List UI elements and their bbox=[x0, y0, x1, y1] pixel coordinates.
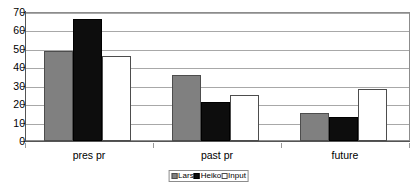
x-axis-category-labels: pres pr past pr future bbox=[25, 143, 410, 163]
legend-swatch-heiko-icon bbox=[194, 173, 200, 179]
bar-pres-pr-input bbox=[102, 56, 131, 141]
bars-layer bbox=[25, 12, 410, 141]
x-tick-separator bbox=[25, 143, 26, 148]
x-cat-label-pres-pr: pres pr bbox=[73, 149, 106, 161]
x-tick-separator bbox=[281, 143, 282, 148]
bar-past-pr-heiko bbox=[201, 102, 230, 141]
x-axis bbox=[25, 141, 410, 142]
legend: Lars Heiko Input bbox=[168, 170, 249, 182]
y-tick-label-10: 10 bbox=[3, 118, 25, 128]
legend-label-input: Input bbox=[228, 172, 246, 180]
bar-future-heiko bbox=[329, 117, 358, 141]
legend-label-heiko: Heiko bbox=[201, 172, 221, 180]
bar-pres-pr-lars bbox=[44, 51, 73, 141]
bar-future-lars bbox=[300, 113, 329, 141]
bar-past-pr-input bbox=[230, 95, 259, 141]
y-tick-label-0: 0 bbox=[3, 136, 25, 146]
y-tick-label-40: 40 bbox=[3, 62, 25, 72]
y-tick-label-30: 30 bbox=[3, 81, 25, 91]
y-tick-label-50: 50 bbox=[3, 44, 25, 54]
legend-swatch-lars-icon bbox=[171, 173, 177, 179]
y-tick-label-60: 60 bbox=[3, 25, 25, 35]
legend-label-lars: Lars bbox=[178, 172, 194, 180]
bar-chart: 70 60 50 40 30 20 10 0 pres pr past pr f… bbox=[0, 0, 417, 191]
x-tick-separator bbox=[409, 143, 410, 148]
legend-entry-lars: Lars bbox=[171, 172, 194, 180]
y-axis-tick-labels: 70 60 50 40 30 20 10 0 bbox=[0, 0, 25, 191]
bar-pres-pr-heiko bbox=[73, 19, 102, 141]
bar-future-input bbox=[358, 89, 387, 141]
x-tick-separator bbox=[153, 143, 154, 148]
legend-swatch-input-icon bbox=[221, 173, 227, 179]
bar-past-pr-lars bbox=[172, 75, 201, 141]
x-cat-label-future: future bbox=[332, 149, 359, 161]
legend-entry-input: Input bbox=[221, 172, 246, 180]
y-tick-label-20: 20 bbox=[3, 99, 25, 109]
legend-entry-heiko: Heiko bbox=[194, 172, 221, 180]
y-tick-label-70: 70 bbox=[3, 7, 25, 17]
x-cat-label-past-pr: past pr bbox=[201, 149, 233, 161]
